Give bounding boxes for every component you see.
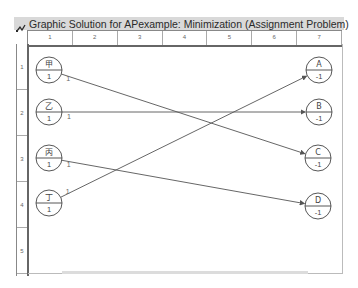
node-label: 丁 <box>45 193 53 202</box>
edge-ding-to-A <box>61 76 307 197</box>
node-value: -1 <box>316 72 323 81</box>
node-ding[interactable]: 丁1 <box>36 190 62 216</box>
node-value: 1 <box>47 160 51 169</box>
node-value: 1 <box>47 205 51 214</box>
node-label: 丙 <box>45 148 53 157</box>
node-value: -1 <box>315 160 322 169</box>
assignment-network-graph: 1111甲1乙1丙1丁1A-1B-1C-1D-1 <box>0 0 358 288</box>
edge-flow-label: 1 <box>66 75 70 82</box>
node-A[interactable]: A-1 <box>306 57 332 83</box>
node-value: -1 <box>316 114 323 123</box>
node-label: C <box>315 148 321 157</box>
node-label: 乙 <box>45 102 53 111</box>
node-yi[interactable]: 乙1 <box>36 99 62 125</box>
figure-caption <box>62 271 308 274</box>
edge-flow-label: 1 <box>66 188 70 195</box>
node-label: A <box>316 60 322 69</box>
node-C[interactable]: C-1 <box>305 145 331 171</box>
node-jia[interactable]: 甲1 <box>36 57 62 83</box>
node-D[interactable]: D-1 <box>305 193 331 219</box>
edge-bing-to-D <box>62 160 304 203</box>
edge-jia-to-C <box>61 74 304 154</box>
node-B[interactable]: B-1 <box>306 99 332 125</box>
edge-flow-label: 1 <box>67 113 71 120</box>
node-label: D <box>315 196 321 205</box>
node-label: B <box>316 102 322 111</box>
edge-flow-label: 1 <box>67 161 71 168</box>
node-bing[interactable]: 丙1 <box>36 145 62 171</box>
node-value: 1 <box>47 72 51 81</box>
node-value: -1 <box>315 208 322 217</box>
node-value: 1 <box>47 114 51 123</box>
node-label: 甲 <box>45 60 53 69</box>
